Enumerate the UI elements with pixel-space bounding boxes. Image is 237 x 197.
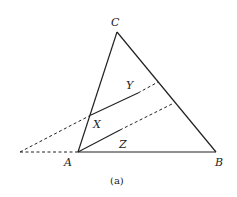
side-bc — [117, 32, 216, 152]
side-ca — [78, 32, 117, 152]
label-a: A — [63, 156, 72, 169]
triangle-diagram: C A B X Y Z (a) — [0, 0, 237, 197]
label-b: B — [214, 156, 223, 169]
segment-y-dashed — [138, 82, 158, 93]
label-z: Z — [118, 138, 127, 151]
segment-y-solid — [91, 93, 138, 115]
label-x: X — [92, 118, 102, 131]
figure-caption: (a) — [110, 175, 124, 186]
label-y: Y — [126, 79, 135, 92]
label-c: C — [111, 16, 120, 29]
segment-z-dashed — [120, 103, 174, 130]
